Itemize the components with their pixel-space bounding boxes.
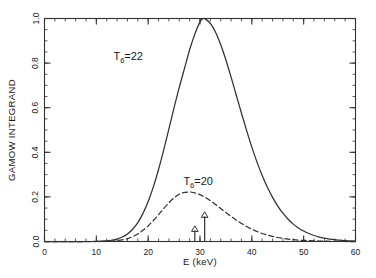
- x-tick-label: 60: [351, 247, 361, 257]
- y-tick-label: 0.0: [31, 235, 41, 247]
- x-tick-label: 20: [143, 247, 153, 257]
- y-tick-label: 0.6: [31, 102, 41, 114]
- y-tick-label: 1.0: [31, 12, 41, 24]
- label-t6-20-value: =20: [194, 175, 213, 187]
- chart-background: [0, 0, 376, 278]
- x-tick-label: 50: [299, 247, 309, 257]
- x-tick-label: 10: [92, 247, 102, 257]
- x-tick-label: 0: [42, 247, 47, 257]
- gamow-integrand-figure: 01020304050600.00.20.40.60.81.0 T6=22T6=…: [0, 0, 376, 278]
- y-axis-label: GAMOW INTEGRAND: [6, 79, 17, 181]
- chart-canvas: 01020304050600.00.20.40.60.81.0 T6=22T6=…: [0, 0, 376, 278]
- y-tick-label: 0.2: [31, 191, 41, 203]
- x-axis-label: E (keV): [183, 256, 217, 267]
- x-tick-label: 40: [247, 247, 257, 257]
- y-tick-label: 0.4: [31, 146, 41, 158]
- x-tick-label: 30: [195, 247, 205, 257]
- y-tick-label: 0.8: [31, 57, 41, 69]
- label-t6-22-value: =22: [124, 50, 143, 62]
